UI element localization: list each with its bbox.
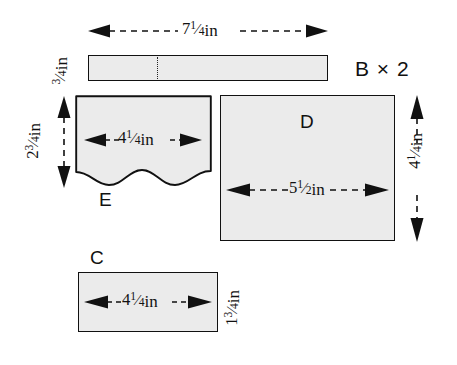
piece-c-label: C <box>90 248 104 267</box>
piece-e-label: E <box>99 190 112 209</box>
dimension-b-width-label: 71⁄4in <box>182 22 218 40</box>
piece-b-seam-line <box>157 57 158 79</box>
cutting-diagram: 71⁄4in 3⁄4in B × 2 23⁄4in 41⁄4in E <box>0 0 457 365</box>
dimension-b-height-label: 3⁄4in <box>53 45 71 97</box>
dimension-d-width-label: 51⁄2in <box>289 181 325 199</box>
dimension-e-width-label: 41⁄4in <box>118 131 154 149</box>
piece-b[interactable] <box>88 55 328 81</box>
dimension-c-height-label: 13⁄4in <box>225 277 243 339</box>
piece-d-label: D <box>300 112 314 131</box>
dimension-c-width-label: 41⁄4in <box>122 293 158 311</box>
piece-b-label: B × 2 <box>355 58 410 79</box>
dimension-e-height <box>57 96 71 188</box>
dimension-d-height-label: 41⁄4in <box>408 120 426 182</box>
dimension-e-height-label: 23⁄4in <box>26 110 44 172</box>
